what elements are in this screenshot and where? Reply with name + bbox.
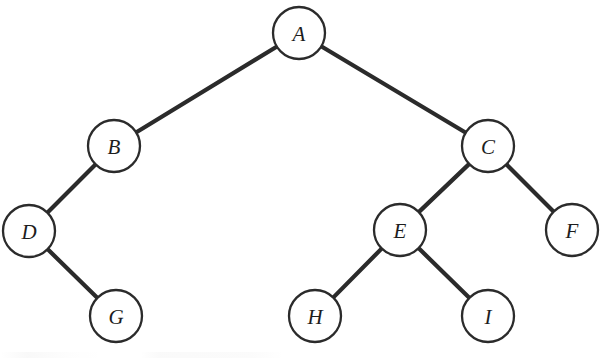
tree-diagram-figure: ABCDEFGHI <box>0 0 600 358</box>
tree-diagram-canvas: ABCDEFGHI <box>0 0 600 358</box>
tree-node-label-i: I <box>484 305 493 329</box>
tree-edges-layer <box>47 46 555 299</box>
tree-node-a[interactable]: A <box>273 7 325 59</box>
tree-node-label-g: G <box>108 305 123 329</box>
tree-node-label-f: F <box>565 219 579 243</box>
tree-node-i[interactable]: I <box>462 290 514 342</box>
tree-node-c[interactable]: C <box>462 120 514 172</box>
tree-node-d[interactable]: D <box>3 205 55 257</box>
tree-node-label-h: H <box>306 305 324 329</box>
tree-node-label-a: A <box>291 22 306 46</box>
tree-node-g[interactable]: G <box>90 290 142 342</box>
tree-node-label-e: E <box>393 219 407 243</box>
tree-edge-c-f <box>506 164 555 213</box>
tree-edge-c-e <box>418 163 470 213</box>
tree-edge-d-g <box>47 248 99 298</box>
tree-node-label-d: D <box>20 220 36 244</box>
tree-edge-b-d <box>47 164 97 214</box>
tree-node-e[interactable]: E <box>374 204 426 256</box>
tree-edge-a-b <box>135 46 278 133</box>
tree-node-h[interactable]: H <box>289 290 341 342</box>
tree-edge-e-h <box>332 248 382 299</box>
tree-node-b[interactable]: B <box>88 120 140 172</box>
tree-edge-a-c <box>320 46 466 134</box>
tree-node-label-c: C <box>481 135 496 159</box>
tree-node-label-b: B <box>108 135 121 159</box>
tree-edge-e-i <box>418 247 471 298</box>
tree-node-f[interactable]: F <box>546 204 598 256</box>
